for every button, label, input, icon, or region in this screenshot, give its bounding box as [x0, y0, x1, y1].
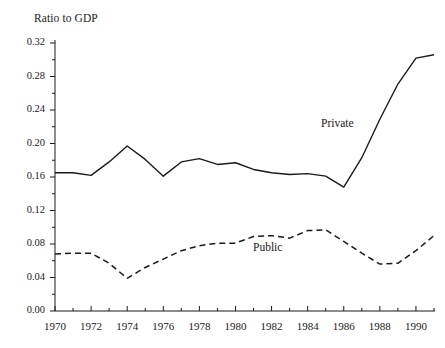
chart-container: Ratio to GDP 0.000.040.080.120.160.200.2…: [0, 0, 445, 348]
x-tick-label: 1982: [252, 320, 292, 332]
y-axis-ticks: [50, 43, 55, 311]
x-tick-label: 1970: [35, 320, 75, 332]
x-tick-label: 1986: [324, 320, 364, 332]
y-tick-label: 0.12: [15, 204, 45, 215]
series-line-private: [55, 55, 434, 187]
x-tick-label: 1976: [143, 320, 183, 332]
x-tick-label: 1980: [215, 320, 255, 332]
y-tick-label: 0.28: [15, 70, 45, 81]
y-tick-label: 0.00: [15, 304, 45, 315]
y-tick-label: 0.04: [15, 271, 45, 282]
y-tick-label: 0.16: [15, 170, 45, 181]
series-label-public: Public: [253, 241, 282, 253]
series-line-public: [55, 230, 434, 279]
plot-area: [0, 0, 445, 348]
y-tick-label: 0.20: [15, 137, 45, 148]
axes: [55, 40, 435, 311]
data-series-group: [55, 55, 434, 279]
x-tick-label: 1990: [396, 320, 436, 332]
x-tick-label: 1988: [360, 320, 400, 332]
x-tick-label: 1984: [288, 320, 328, 332]
y-tick-label: 0.08: [15, 237, 45, 248]
x-tick-label: 1972: [71, 320, 111, 332]
y-tick-label: 0.32: [15, 36, 45, 47]
series-label-private: Private: [321, 117, 354, 129]
y-tick-label: 0.24: [15, 103, 45, 114]
x-axis-ticks: [55, 306, 434, 311]
x-tick-label: 1978: [179, 320, 219, 332]
x-tick-label: 1974: [107, 320, 147, 332]
